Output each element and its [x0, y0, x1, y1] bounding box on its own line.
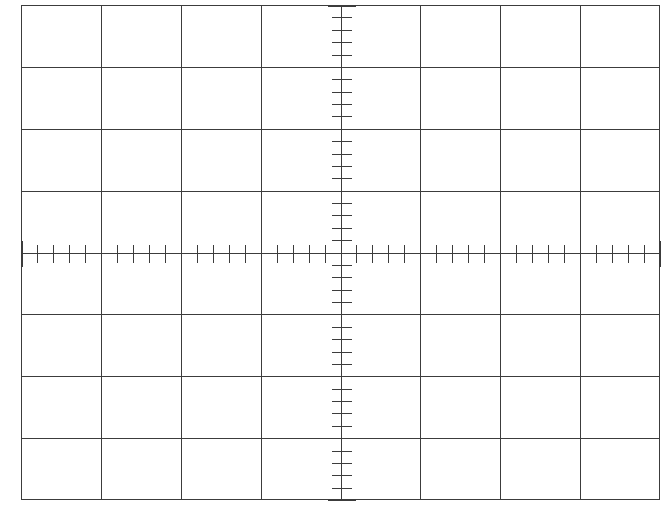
graticule-svg	[21, 5, 660, 500]
oscilloscope-graticule	[21, 5, 660, 500]
screenshot-canvas	[0, 0, 668, 518]
